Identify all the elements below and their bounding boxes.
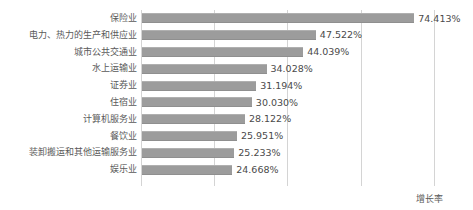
category-label: 装卸搬运和其他运输服务业 <box>0 144 137 161</box>
bar-fill <box>142 114 245 124</box>
value-label: 30.030% <box>256 96 298 110</box>
bar-row: 水上运输业34.028% <box>0 60 473 77</box>
bar-row: 娱乐业24.668% <box>0 161 473 178</box>
value-label: 24.668% <box>236 163 278 177</box>
bar[interactable] <box>142 47 303 57</box>
bar-row: 城市公共交通业44.039% <box>0 44 473 61</box>
value-label: 31.194% <box>260 79 302 93</box>
value-label: 25.233% <box>238 146 280 160</box>
bar-fill <box>142 64 267 74</box>
bar-rows: 保险业74.413%电力、热力的生产和供应业47.522%城市公共交通业44.0… <box>0 0 473 186</box>
bar-row: 餐饮业25.951% <box>0 128 473 145</box>
bar-row: 证券业31.194% <box>0 77 473 94</box>
bar-fill <box>142 165 232 175</box>
value-label: 44.039% <box>307 45 349 59</box>
bar-fill <box>142 97 252 107</box>
bar-row: 保险业74.413% <box>0 10 473 27</box>
bar-row: 计算机服务业28.122% <box>0 111 473 128</box>
bar-fill <box>142 47 303 57</box>
value-label: 34.028% <box>271 62 313 76</box>
value-label: 25.951% <box>241 129 283 143</box>
axis-title-growth-rate: 增长率 <box>416 192 443 205</box>
value-label: 28.122% <box>249 112 291 126</box>
bar[interactable] <box>142 148 234 158</box>
category-label: 住宿业 <box>0 94 137 111</box>
value-label: 47.522% <box>320 28 362 42</box>
category-label: 电力、热力的生产和供应业 <box>0 27 137 44</box>
bar-fill <box>142 131 237 141</box>
bar[interactable] <box>142 30 316 40</box>
bar[interactable] <box>142 165 232 175</box>
bar-chart: 保险业74.413%电力、热力的生产和供应业47.522%城市公共交通业44.0… <box>0 0 473 210</box>
bar[interactable] <box>142 114 245 124</box>
bar-fill <box>142 13 414 23</box>
category-label: 证券业 <box>0 77 137 94</box>
bar-row: 电力、热力的生产和供应业47.522% <box>0 27 473 44</box>
value-label: 74.413% <box>418 12 460 26</box>
bar-row: 装卸搬运和其他运输服务业25.233% <box>0 144 473 161</box>
bar-fill <box>142 30 316 40</box>
bar[interactable] <box>142 131 237 141</box>
category-label: 娱乐业 <box>0 161 137 178</box>
bar-fill <box>142 148 234 158</box>
bar[interactable] <box>142 64 267 74</box>
bar[interactable] <box>142 81 256 91</box>
category-label: 计算机服务业 <box>0 111 137 128</box>
category-label: 城市公共交通业 <box>0 44 137 61</box>
bar[interactable] <box>142 97 252 107</box>
bar-row: 住宿业30.030% <box>0 94 473 111</box>
bar-fill <box>142 81 256 91</box>
category-label: 保险业 <box>0 10 137 27</box>
category-label: 餐饮业 <box>0 128 137 145</box>
category-label: 水上运输业 <box>0 60 137 77</box>
bar[interactable] <box>142 13 414 23</box>
